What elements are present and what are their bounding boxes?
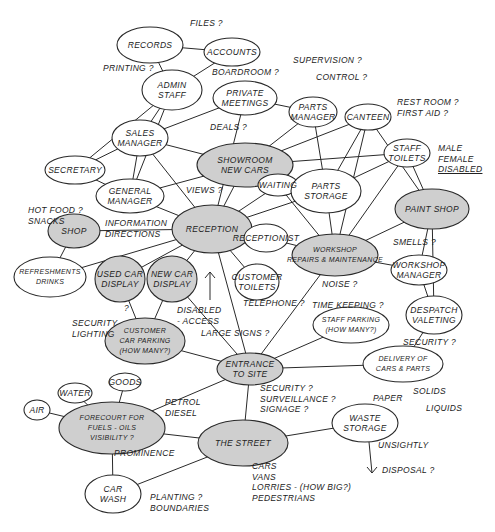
annotation-deals: DEALS ? [210, 122, 247, 133]
annotation-printing: PRINTING ? [103, 63, 154, 74]
bubble-label-shop: SHOP [61, 226, 86, 236]
bubble-label-parts-manager: PARTS MANAGER [290, 102, 335, 122]
bubble-label-admin-staff: ADMIN STAFF [158, 80, 187, 100]
annotation-planting: PLANTING ? BOUNDARIES [150, 492, 209, 513]
annotation-supervision: SUPERVISION ? [293, 55, 362, 66]
annotation-noise: NOISE ? [322, 279, 358, 290]
annotation-security-right: SECURITY ? [403, 337, 456, 348]
annotation-control: CONTROL ? [316, 72, 367, 83]
annotation-views: VIEWS ? [186, 185, 223, 196]
bubble-label-customer-car-parking: CUSTOMER CAR PARKING (HOW MANY?) [119, 326, 170, 356]
bubble-label-showroom: SHOWROOM NEW CARS [217, 155, 272, 175]
bubble-label-entrance: ENTRANCE TO SITE [225, 359, 274, 379]
annotation-paper: PAPER [373, 393, 403, 404]
annotation-time-keeping: TIME KEEPING ? [312, 300, 384, 311]
bubble-label-delivery: DELIVERY OF CARS & PARTS [376, 354, 430, 374]
bubble-label-refreshments: REFRESHMENTS DRINKS [19, 267, 81, 287]
bubble-label-reception: RECEPTION [186, 224, 238, 234]
annotation-disposal: DISPOSAL ? [382, 465, 434, 476]
annotation-q-used: ? [124, 303, 129, 314]
bubble-label-secretary: SECRETARY [48, 165, 102, 175]
bubble-label-staff-toilets: STAFF TOILETS [388, 143, 425, 163]
annotation-solids: SOLIDS [413, 386, 446, 397]
bubble-label-despatch-valeting: DESPATCH VALETING [410, 305, 457, 325]
bubble-label-car-wash: CAR WASH [100, 484, 127, 504]
bubble-label-workshop-manager: WORKSHOP MANAGER [393, 260, 446, 280]
annotation-boardroom: BOARDROOM ? [212, 67, 279, 78]
bubble-label-new-car-display: NEW CAR DISPLAY [151, 269, 193, 289]
annotation-large-signs: LARGE SIGNS ? [201, 328, 270, 339]
bubble-label-water: WATER [59, 388, 90, 398]
bubble-label-private-meetings: PRIVATE MEETINGS [222, 88, 269, 108]
bubble-label-air: AIR [29, 405, 44, 415]
bubble-label-canteen: CANTEEN [347, 112, 390, 122]
annotation-telephone: TELEPHONE ? [243, 298, 305, 309]
bubble-label-workshop: WORKSHOP REPAIRS & MAINTENANCE [287, 245, 383, 265]
annotation-unsightly: UNSIGHTLY [378, 440, 429, 451]
bubble-label-receptionist: RECEPTIONIST [233, 233, 299, 243]
bubble-label-waste-storage: WASTE STORAGE [343, 413, 387, 433]
bubble-label-staff-parking: STAFF PARKING (HOW MANY?) [322, 315, 380, 335]
annotation-security-lighting: SECURITY LIGHTING [72, 318, 117, 339]
bubble-label-parts-storage: PARTS STORAGE [304, 181, 348, 201]
annotation-petrol-diesel: PETROL DIESEL [165, 397, 201, 418]
bubble-label-forecourt: FORECOURT FOR FUELS - OILS VISIBILITY ? [80, 413, 145, 443]
bubble-label-used-car-display: USED CAR DISPLAY [97, 269, 143, 289]
annotation-restroom: REST ROOM ? FIRST AID ? [397, 97, 459, 118]
bubble-label-goods: GOODS [108, 377, 141, 387]
bubble-diagram-canvas: RECORDSACCOUNTSADMIN STAFFPRIVATE MEETIN… [0, 0, 495, 532]
bubble-label-waiting: WAITING [259, 180, 297, 190]
bubble-label-paint-shop: PAINT SHOP [405, 204, 459, 214]
bubble-label-accounts: ACCOUNTS [207, 47, 257, 57]
annotation-hot-food: HOT FOOD ? SNACKS [28, 205, 83, 226]
bubble-label-the-street: THE STREET [215, 438, 271, 448]
bubble-label-general-manager: GENERAL MANAGER [107, 186, 152, 206]
bubble-label-records: RECORDS [128, 40, 173, 50]
bubble-label-sales-manager: SALES MANAGER [117, 128, 162, 148]
bubble-label-customer-toilets: CUSTOMER TOILETS [232, 272, 283, 292]
annotation-security-surveillance: SECURITY ? SURVEILLANCE ? SIGNAGE ? [260, 383, 336, 415]
annotation-files: FILES ? [190, 18, 223, 29]
annotation-information: INFORMATION DIRECTIONS [105, 218, 167, 239]
annotation-male-female-disabled: MALEFEMALEDISABLED [438, 143, 482, 175]
annotation-prominence: PROMINENCE [114, 448, 175, 459]
annotation-disabled-access: DISABLED - ACCESS [177, 305, 221, 326]
annotation-liquids: LIQUIDS [426, 403, 462, 414]
annotation-vehicles: CARS VANS LORRIES - (HOW BIG?) PEDESTRIA… [252, 461, 351, 503]
annotation-smells: SMELLS ? [393, 237, 436, 248]
